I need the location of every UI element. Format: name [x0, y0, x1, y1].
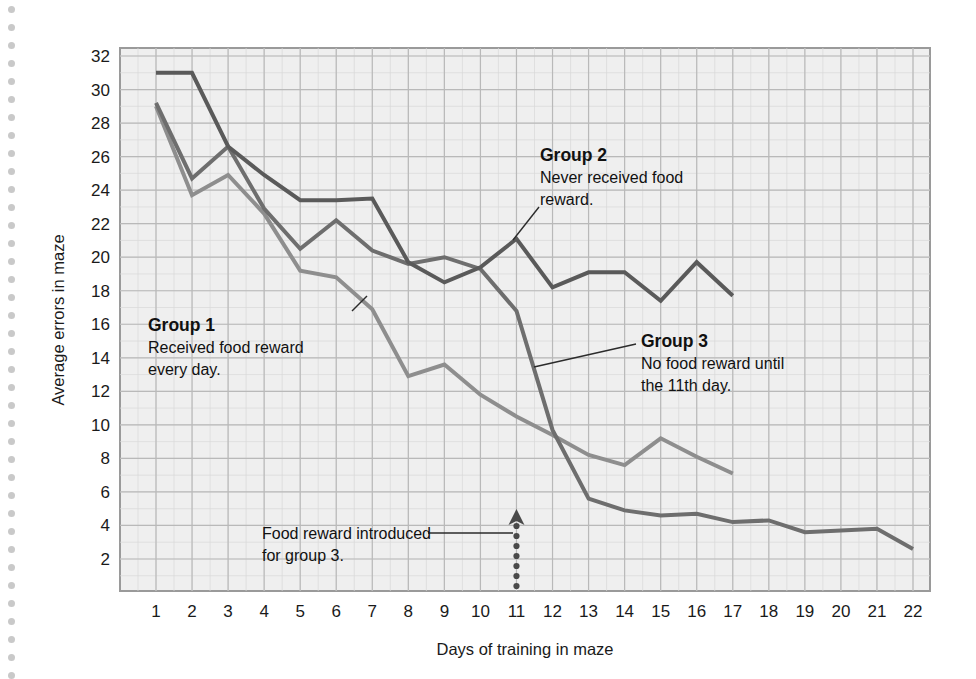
food-marker-line-2: for group 3. [262, 547, 344, 564]
x-axis-tick-label: 20 [831, 602, 850, 621]
y-axis-tick-label: 16 [91, 315, 110, 334]
plot-area-background [120, 48, 930, 591]
y-axis-tick-label: 30 [91, 81, 110, 100]
x-axis-tick-label: 9 [440, 602, 449, 621]
y-axis-tick-label: 22 [91, 215, 110, 234]
arrow-dot [513, 583, 519, 589]
group-2-title: Group 2 [540, 145, 607, 165]
group-1-title: Group 1 [148, 315, 215, 335]
arrow-dot [513, 523, 519, 529]
group-1-line-2: every day. [148, 361, 221, 378]
x-axis-tick-label: 14 [615, 602, 634, 621]
x-axis-tick-label: 16 [687, 602, 706, 621]
x-axis-tick-label: 7 [368, 602, 377, 621]
group-3-line-1: No food reward until [641, 355, 784, 372]
group-2-line-2: reward. [540, 191, 593, 208]
y-axis-tick-label: 28 [91, 114, 110, 133]
x-axis-tick-label: 4 [259, 602, 268, 621]
group-3-title: Group 3 [641, 331, 708, 351]
y-axis-tick-label: 26 [91, 148, 110, 167]
group-1-line-1: Received food reward [148, 339, 304, 356]
y-axis-tick-label: 24 [91, 181, 110, 200]
x-axis-tick-label: 3 [223, 602, 232, 621]
x-axis-tick-labels: 12345678910111213141516171819202122 [151, 602, 922, 621]
group-2-line-1: Never received food [540, 169, 683, 186]
y-axis-tick-label: 8 [101, 449, 110, 468]
y-axis-tick-label: 4 [101, 516, 110, 535]
x-axis-tick-label: 2 [187, 602, 196, 621]
x-axis-tick-label: 13 [579, 602, 598, 621]
arrow-dot [513, 533, 519, 539]
y-axis-tick-label: 2 [101, 550, 110, 569]
x-axis-tick-label: 15 [651, 602, 670, 621]
group-3-line-2: the 11th day. [641, 377, 731, 394]
x-axis-tick-label: 10 [471, 602, 490, 621]
y-axis-tick-label: 14 [91, 349, 110, 368]
y-axis-tick-label: 20 [91, 248, 110, 267]
x-axis-tick-label: 22 [904, 602, 923, 621]
x-axis-tick-label: 8 [404, 602, 413, 621]
arrow-dot [513, 543, 519, 549]
y-axis-tick-label: 12 [91, 382, 110, 401]
x-axis-tick-label: 5 [295, 602, 304, 621]
y-axis-tick-labels: 2468101214161820222426283032 [91, 47, 110, 569]
x-axis-tick-label: 1 [151, 602, 160, 621]
x-axis-tick-label: 18 [759, 602, 778, 621]
x-axis-tick-label: 12 [543, 602, 562, 621]
x-axis-tick-label: 21 [867, 602, 886, 621]
food-marker-line-1: Food reward introduced [262, 525, 431, 542]
x-axis-tick-label: 11 [508, 602, 526, 621]
x-axis-title: Days of training in maze [437, 640, 614, 658]
arrow-dot [513, 553, 519, 559]
y-axis-tick-label: 6 [101, 483, 110, 502]
x-axis-tick-label: 19 [795, 602, 814, 621]
y-axis-title: Average errors in maze [49, 234, 67, 405]
x-axis-tick-label: 6 [332, 602, 341, 621]
arrow-dot [513, 563, 519, 569]
y-axis-tick-label: 10 [91, 416, 110, 435]
y-axis-tick-label: 32 [91, 47, 110, 66]
y-axis-tick-label: 18 [91, 282, 110, 301]
x-axis-tick-label: 17 [723, 602, 742, 621]
arrow-dot [513, 573, 519, 579]
